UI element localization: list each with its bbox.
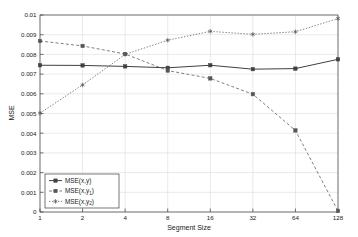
y-tick-label: 0.004	[21, 130, 37, 137]
data-point	[336, 58, 339, 61]
data-point	[38, 64, 41, 67]
y-tick-label: 0.008	[21, 51, 37, 58]
x-tick-label: 1	[38, 214, 42, 221]
data-point	[294, 67, 297, 70]
legend-sample-marker	[54, 179, 57, 182]
y-axis-title: MSE	[8, 105, 15, 121]
mse-vs-segment-size-line-chart: 00.0010.0020.0030.0040.0050.0060.0070.00…	[0, 0, 358, 237]
y-tick-label: 0.003	[21, 149, 37, 156]
data-point	[251, 92, 254, 95]
x-tick-label: 128	[333, 214, 344, 221]
y-tick-label: 0.006	[21, 90, 37, 97]
x-tick-label: 16	[207, 214, 214, 221]
x-tick-label: 4	[123, 214, 127, 221]
data-point	[123, 65, 126, 68]
y-tick-label: 0.005	[21, 110, 37, 117]
data-point	[166, 69, 169, 72]
data-point	[209, 64, 212, 67]
x-tick-label: 64	[292, 214, 299, 221]
chart-figure: 00.0010.0020.0030.0040.0050.0060.0070.00…	[0, 0, 358, 237]
data-point	[251, 67, 254, 70]
y-tick-label: 0.002	[21, 169, 37, 176]
data-point	[38, 39, 41, 42]
y-tick-label: 0.001	[21, 189, 37, 196]
y-tick-label: 0.009	[21, 31, 37, 38]
legend-entry-label: MSE(x,y)	[65, 177, 91, 185]
data-point	[294, 129, 297, 132]
y-tick-label: 0.01	[24, 11, 37, 18]
x-tick-label: 2	[81, 214, 85, 221]
x-tick-label: 32	[249, 214, 256, 221]
chart-legend: MSE(x,y)MSE(x,y1)MSE(x,y2)	[45, 174, 119, 208]
data-point	[81, 44, 84, 47]
legend-sample-marker	[54, 189, 57, 192]
data-point	[209, 77, 212, 80]
y-tick-label: 0.007	[21, 70, 37, 77]
data-point	[81, 64, 84, 67]
x-axis-title: Segment Size	[167, 224, 211, 232]
data-point	[336, 209, 339, 212]
y-tick-label: 0	[33, 208, 37, 215]
x-tick-label: 8	[166, 214, 170, 221]
